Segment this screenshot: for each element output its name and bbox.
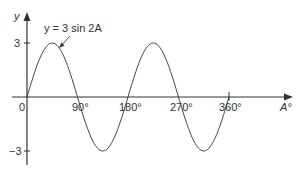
y-tick-neg3: −3 (9, 145, 22, 157)
x-tick-90: 90° (72, 101, 89, 113)
x-tick-180: 180° (119, 101, 142, 113)
x-tick-270: 270° (170, 101, 193, 113)
y-axis-label: y (13, 10, 21, 22)
sine-chart: y 3 −3 0 90° 180° 270° 360° A° y = 3 sin… (0, 0, 300, 182)
y-axis-arrow-icon (24, 12, 31, 21)
equation-annotation: y = 3 sin 2A (44, 22, 102, 34)
x-axis-label: A° (279, 101, 292, 113)
x-axis-arrow-icon (284, 94, 293, 101)
origin-label: 0 (19, 101, 25, 113)
y-tick-3: 3 (14, 37, 20, 49)
x-tick-360: 360° (219, 101, 242, 113)
